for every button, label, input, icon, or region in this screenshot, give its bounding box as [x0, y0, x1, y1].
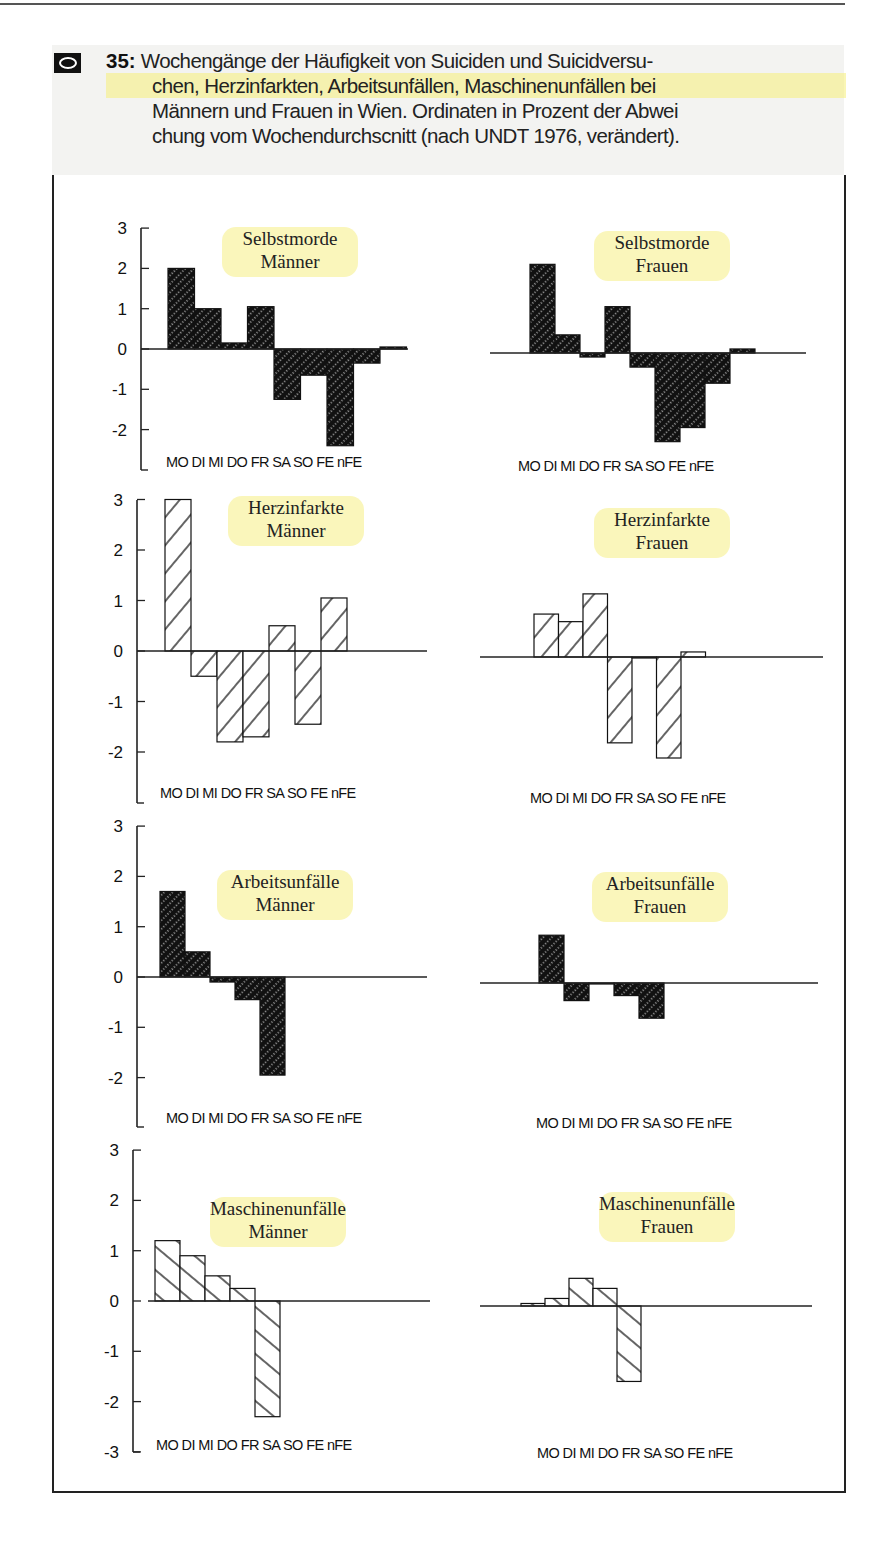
bar-mi [217, 651, 243, 742]
y-tick-label: 3 [110, 1141, 119, 1160]
panel-title: Männer [260, 251, 320, 272]
chart-panel-herzinfarkte-maenner: HerzinfarkteMänner3210-1-2MO DI MI DO FR… [108, 491, 427, 804]
bar-sa [657, 657, 682, 758]
panel-title: Selbstmorde [243, 228, 338, 249]
chart-panel-herzinfarkte-frauen: HerzinfarkteFrauenMO DI MI DO FR SA SO F… [480, 508, 823, 806]
y-tick-label: 3 [114, 817, 123, 836]
chart-panel-selbstmorde-maenner: SelbstmordeMänner3210-1-2MO DI MI DO FR … [112, 219, 408, 470]
bar-mi [569, 1278, 593, 1306]
panel-title: Frauen [641, 1216, 694, 1237]
bar-sa [295, 651, 321, 724]
bar-do [248, 307, 275, 349]
bar-fr [630, 353, 655, 367]
bar-fe [354, 349, 381, 363]
bar-sa [655, 353, 680, 442]
panel-title: Herzinfarkte [614, 509, 710, 530]
x-axis-label: MO DI MI DO FR SA SO FE nFE [537, 1445, 734, 1461]
chart-panels: SelbstmordeMänner3210-1-2MO DI MI DO FR … [0, 0, 886, 1563]
bar-so [321, 598, 347, 651]
y-tick-label: 2 [114, 541, 123, 560]
bar-mo [539, 935, 564, 983]
bar-di [195, 309, 222, 349]
panel-title: Männer [266, 520, 326, 541]
x-axis-label: MO DI MI DO FR SA SO FE nFE [518, 458, 715, 474]
bar-di [185, 952, 210, 977]
bar-mo [165, 500, 191, 652]
panel-title: Maschinenunfälle [210, 1198, 346, 1219]
bar-fr [274, 349, 301, 399]
y-tick-label: -1 [108, 1018, 123, 1037]
panel-title: Maschinenunfälle [599, 1193, 735, 1214]
bar-do [243, 651, 269, 737]
bar-mo [160, 891, 185, 977]
x-axis-label: MO DI MI DO FR SA SO FE nFE [536, 1115, 733, 1131]
bar-mi [221, 343, 248, 349]
bar-sa [301, 349, 328, 375]
y-tick-label: 0 [114, 642, 123, 661]
panel-title: Herzinfarkte [248, 497, 344, 518]
x-axis-label: MO DI MI DO FR SA SO FE nFE [530, 790, 727, 806]
y-tick-label: 0 [114, 968, 123, 987]
y-tick-label: 2 [118, 259, 127, 278]
bar-do [614, 983, 639, 996]
bar-fr [255, 1301, 280, 1417]
y-tick-label: -2 [108, 1069, 123, 1088]
y-tick-label: -1 [112, 380, 127, 399]
x-axis-label: MO DI MI DO FR SA SO FE nFE [156, 1437, 353, 1453]
chart-panel-arbeitsunfaelle-maenner: ArbeitsunfälleMänner3210-1-2MO DI MI DO … [108, 817, 427, 1127]
panel-title: Arbeitsunfälle [231, 871, 340, 892]
panel-title: Selbstmorde [615, 232, 710, 253]
panel-title: Arbeitsunfälle [606, 873, 715, 894]
panel-title: Männer [248, 1221, 308, 1242]
bar-mi [583, 594, 608, 657]
y-tick-label: 2 [110, 1191, 119, 1210]
y-tick-label: 1 [114, 918, 123, 937]
bar-di [180, 1256, 205, 1301]
bar-do [230, 1288, 255, 1301]
x-axis-label: MO DI MI DO FR SA SO FE nFE [160, 785, 357, 801]
bar-do [235, 977, 260, 1000]
bar-do [593, 1288, 617, 1306]
y-tick-label: 1 [118, 300, 127, 319]
panel-title: Frauen [636, 532, 689, 553]
bar-di [559, 622, 584, 657]
y-tick-label: 2 [114, 867, 123, 886]
bar-mo [155, 1241, 180, 1301]
bar-mi [205, 1276, 230, 1301]
y-tick-label: 1 [114, 592, 123, 611]
bar-mo [168, 268, 195, 349]
bar-do [608, 657, 633, 743]
chart-panel-maschinenunfaelle-maenner: MaschinenunfälleMänner3210-1-2-3MO DI MI… [104, 1141, 430, 1462]
bar-fr [617, 1306, 641, 1381]
bar-di [545, 1298, 569, 1306]
y-tick-label: -2 [108, 743, 123, 762]
bar-di [191, 651, 217, 676]
chart-panel-selbstmorde-frauen: SelbstmordeFrauenMO DI MI DO FR SA SO FE… [490, 231, 806, 474]
panel-title: Männer [255, 894, 315, 915]
chart-panel-maschinenunfaelle-frauen: MaschinenunfälleFrauenMO DI MI DO FR SA … [480, 1192, 812, 1461]
bar-fr [260, 977, 285, 1075]
y-tick-label: -2 [112, 421, 127, 440]
bar-fe [705, 353, 730, 383]
y-tick-label: 3 [114, 491, 123, 510]
bar-so [680, 353, 705, 428]
bar-fr [639, 983, 664, 1018]
y-tick-label: 0 [110, 1292, 119, 1311]
y-tick-label: -1 [108, 693, 123, 712]
y-tick-label: -1 [104, 1342, 119, 1361]
x-axis-label: MO DI MI DO FR SA SO FE nFE [166, 1110, 363, 1126]
y-tick-label: 0 [118, 340, 127, 359]
panel-title: Frauen [636, 255, 689, 276]
y-tick-label: -2 [104, 1393, 119, 1412]
bar-mi [210, 977, 235, 982]
bar-so [681, 652, 706, 657]
chart-panel-arbeitsunfaelle-frauen: ArbeitsunfälleFrauenMO DI MI DO FR SA SO… [480, 872, 818, 1131]
bar-so [327, 349, 354, 446]
bar-di [555, 335, 580, 353]
y-tick-label: -3 [104, 1443, 119, 1462]
bar-fr [269, 626, 295, 651]
panel-title: Frauen [634, 896, 687, 917]
bar-mo [530, 264, 555, 353]
y-tick-label: 3 [118, 219, 127, 238]
x-axis-label: MO DI MI DO FR SA SO FE nFE [166, 454, 363, 470]
